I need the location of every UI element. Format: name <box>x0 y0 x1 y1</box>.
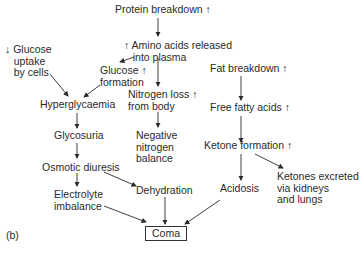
arrows-layer <box>0 0 364 253</box>
node-glycosuria: Glycosuria <box>54 130 104 142</box>
node-ketones-excreted: Ketones excreted via kidneys and lungs <box>277 171 359 206</box>
arrow-electrolyte-to-coma <box>104 206 146 222</box>
arrow-uptake-to-hyper <box>50 74 68 96</box>
node-hyperglycaemia: Hyperglycaemia <box>40 99 115 111</box>
arrow-osmotic-to-dehydration <box>104 172 136 186</box>
node-glucose-formation: Glucose ↑ formation <box>100 65 147 88</box>
node-osmotic-diuresis: Osmotic diuresis <box>42 162 120 174</box>
node-glucose-uptake: ↓ Glucose uptake by cells <box>5 44 52 79</box>
node-coma: Coma <box>145 226 187 241</box>
node-electrolyte-imbalance: Electrolyte imbalance <box>54 189 103 212</box>
node-protein-breakdown: Protein breakdown ↑ <box>115 4 211 16</box>
node-free-fatty-acids: Free fatty acids ↑ <box>210 102 290 114</box>
node-nitrogen-loss: Nitrogen loss ↑ from body <box>128 89 197 112</box>
node-ketone-formation: Ketone formation ↑ <box>204 140 292 152</box>
node-amino-acids: ↑ Amino acids released into plasma <box>124 40 232 63</box>
arrow-ketone-to-excreted <box>255 154 283 168</box>
node-acidosis: Acidosis <box>220 183 259 195</box>
node-dehydration: Dehydration <box>136 185 193 197</box>
node-negative-nitrogen: Negative nitrogen balance <box>136 130 177 165</box>
arrow-acidosis-to-coma <box>185 200 220 224</box>
arrow-glucoseform-to-hyper <box>84 85 100 97</box>
node-fat-breakdown: Fat breakdown ↑ <box>210 63 288 75</box>
panel-label: (b) <box>6 230 19 242</box>
